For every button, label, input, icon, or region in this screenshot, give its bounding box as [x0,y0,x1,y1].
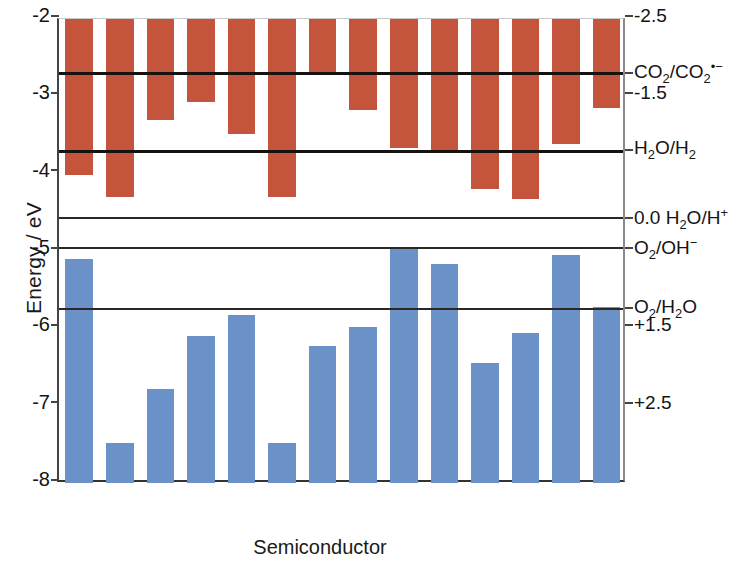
bar-conduction-band [309,19,337,72]
bar-valence-band [147,389,175,483]
bar-valence-band [390,249,418,483]
tick-mark [51,169,59,171]
tick-mark [625,247,633,249]
bar-valence-band [512,333,540,483]
tick-mark [51,401,59,403]
bar-valence-band [106,443,134,483]
bar-valence-band [187,336,215,483]
bar-conduction-band [471,19,499,189]
bar-conduction-band [552,19,580,144]
reference-line [59,150,623,153]
tick-mark [625,15,633,17]
tick-mark [625,92,633,94]
tick-mark [625,307,633,309]
reference-line-label: CO2/CO2•− [634,59,723,86]
y-tick-left: -5 [4,236,50,259]
bar-valence-band [65,259,93,483]
bar-valence-band [228,315,256,483]
bar-valence-band [431,264,459,483]
tick-mark [51,15,59,17]
reference-line [59,308,623,310]
bar-conduction-band [349,19,377,110]
tick-mark [51,247,59,249]
bar-conduction-band [390,19,418,148]
bar-conduction-band [512,19,540,199]
tick-mark [51,324,59,326]
y-tick-left: -8 [4,468,50,491]
bar-conduction-band [147,19,175,120]
bar-conduction-band [228,19,256,134]
y-tick-left: -3 [4,81,50,104]
reference-line [59,247,623,249]
tick-mark [625,149,633,151]
tick-mark [625,324,633,326]
bar-conduction-band [187,19,215,102]
reference-line [59,217,623,219]
reference-line-label: H2O/H2 [634,137,696,162]
bar-valence-band [268,443,296,483]
tick-mark [625,402,633,404]
bar-valence-band [309,346,337,483]
bar-valence-band [552,255,580,483]
y-tick-left: -4 [4,159,50,182]
y-tick-left: -2 [4,4,50,27]
bar-valence-band [593,307,621,483]
bars-layer [59,19,623,480]
bar-valence-band [349,327,377,483]
y-tick-right: +2.5 [634,392,672,414]
bar-conduction-band [268,19,296,197]
tick-mark [51,92,59,94]
reference-line-label: O2/OH− [634,235,697,262]
x-axis-title: Semiconductor [0,536,640,559]
bar-conduction-band [431,19,459,152]
tick-mark [625,72,633,74]
reference-line-label: 0.0 H2O/H+ [634,205,728,232]
y-tick-left: -7 [4,391,50,414]
plot-area [57,18,625,482]
chart-figure: Energy / eV Standard Reduction Potential… [0,0,755,567]
bar-conduction-band [106,19,134,197]
tick-mark [51,479,59,481]
y-tick-left: -6 [4,313,50,336]
reference-line-label: O2/H2O [634,296,697,321]
bar-valence-band [471,363,499,483]
y-tick-right: -2.5 [634,5,667,27]
reference-line [59,72,623,75]
tick-mark [625,217,633,219]
bar-conduction-band [593,19,621,108]
